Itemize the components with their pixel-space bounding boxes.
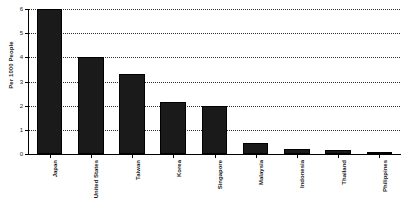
bar	[37, 9, 63, 154]
bar	[78, 57, 104, 154]
x-axis-category-label: Taiwan	[135, 160, 141, 180]
gridline	[29, 9, 400, 10]
x-axis-tick-mark	[215, 154, 216, 158]
x-axis-tick-mark	[132, 154, 133, 158]
x-axis-category-label: Thailand	[341, 160, 347, 185]
x-axis-category-label: Malaysia	[258, 160, 264, 185]
x-axis-tick-mark	[338, 154, 339, 158]
x-axis-category-label: United States	[93, 160, 99, 198]
x-axis-category-label: Korea	[176, 160, 182, 177]
x-axis-category-label: Indonesia	[299, 160, 305, 188]
x-axis-category-label: Philippines	[382, 160, 388, 192]
x-axis-tick-mark	[173, 154, 174, 158]
y-axis-tick-mark	[25, 33, 29, 34]
x-axis-tick-mark	[91, 154, 92, 158]
bar	[202, 106, 228, 154]
x-axis-category-label: Singapore	[217, 160, 223, 189]
y-axis-tick-label: 0	[12, 151, 23, 157]
y-axis-tick-mark	[25, 57, 29, 58]
bar	[160, 102, 186, 154]
bar	[119, 74, 145, 154]
y-axis-tick-label: 1	[12, 127, 23, 133]
x-axis-tick-mark	[50, 154, 51, 158]
y-axis-tick-mark	[25, 154, 29, 155]
y-axis-tick-label: 3	[12, 79, 23, 85]
x-axis-tick-mark	[379, 154, 380, 158]
x-axis-tick-mark	[256, 154, 257, 158]
y-axis-tick-mark	[25, 106, 29, 107]
y-axis-tick-mark	[25, 9, 29, 10]
y-axis-tick-label: 2	[12, 103, 23, 109]
y-axis-tick-mark	[25, 82, 29, 83]
bar-chart: Per 1000 People 0123456JapanUnited State…	[0, 0, 406, 213]
y-axis-tick-label: 6	[12, 6, 23, 12]
bar	[243, 143, 269, 154]
x-axis-category-label: Japan	[52, 160, 58, 177]
gridline	[29, 33, 400, 34]
x-axis-tick-mark	[297, 154, 298, 158]
y-axis-tick-label: 5	[12, 30, 23, 36]
y-axis-tick-mark	[25, 130, 29, 131]
y-axis-tick-label: 4	[12, 54, 23, 60]
